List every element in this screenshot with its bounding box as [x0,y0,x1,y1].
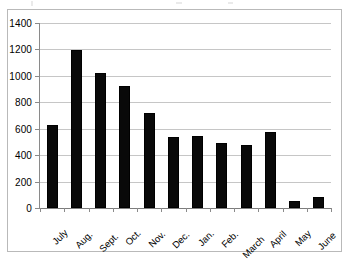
y-axis-tick-label: 1200 [9,44,32,55]
x-tick [258,208,259,212]
x-axis-tick-label-wrap: Feb. [232,215,253,236]
x-tick [64,208,65,212]
chart-frame: 0200400600800100012001400 JulyAug.Sept.O… [7,9,342,252]
x-tick [283,208,284,212]
scan-artifact [176,2,182,4]
bar [313,197,324,208]
x-tick [307,208,308,212]
bar [265,132,276,208]
y-axis-tick-label: 1400 [9,18,32,29]
x-tick [113,208,114,212]
y-axis-tick-label: 800 [15,97,32,108]
bar [144,113,155,208]
scan-artifact [228,2,233,4]
bar [216,143,227,208]
x-axis-tick-label-wrap: Oct. [135,215,155,235]
x-axis-tick-label: May [292,228,312,248]
x-tick [331,208,332,212]
bar [289,201,300,208]
plot-area: 0200400600800100012001400 JulyAug.Sept.O… [40,23,331,208]
y-axis-tick-label: 1000 [9,70,32,81]
x-axis-tick-label: Aug. [73,229,95,251]
y-axis-tick-label: 600 [15,123,32,134]
bar [71,50,82,208]
x-axis-tick-label-wrap: June [330,215,352,237]
y-axis-tick-label: 400 [15,150,32,161]
bar [47,125,58,208]
x-tick [137,208,138,212]
bar [168,137,179,208]
x-axis-tick-label: Feb. [219,228,240,249]
x-axis-tick-label-wrap: July [62,215,82,235]
x-tick [89,208,90,212]
bar [192,136,203,208]
x-tick [186,208,187,212]
x-axis-tick-label: Sept. [96,231,119,254]
bar-series [40,23,331,208]
bar [95,73,106,208]
chart-page: 0200400600800100012001400 JulyAug.Sept.O… [0,0,352,264]
x-axis-tick-label-wrap: Aug. [87,215,109,237]
x-axis-tick-label-wrap: May [305,215,325,235]
x-axis-tick-label: March [240,234,266,260]
x-tick [40,208,41,212]
scan-artifact [31,1,33,6]
x-tick [210,208,211,212]
x-axis-tick-label: Dec. [170,229,192,251]
x-axis-tick-label: Jan. [195,228,215,248]
x-axis-tick-label: June [315,230,337,252]
bar [241,145,252,208]
x-axis-tick-label-wrap: Jan. [208,215,228,235]
x-axis-tick-label: July [50,227,70,247]
x-tick [161,208,162,212]
x-axis-tick-label-wrap: Nov. [160,215,181,236]
bar [119,86,130,208]
y-axis-tick-label: 0 [26,203,32,214]
y-axis-tick-label: 200 [15,176,32,187]
x-tick [234,208,235,212]
x-axis-tick-label: Nov. [146,228,167,249]
